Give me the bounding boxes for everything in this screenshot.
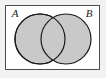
set-b-label: B [86, 7, 93, 19]
venn-diagram-figure: A B [0, 0, 106, 78]
venn-diagram-canvas: A B [0, 0, 106, 78]
set-b-circle [41, 14, 91, 64]
set-a-label: A [11, 7, 19, 19]
